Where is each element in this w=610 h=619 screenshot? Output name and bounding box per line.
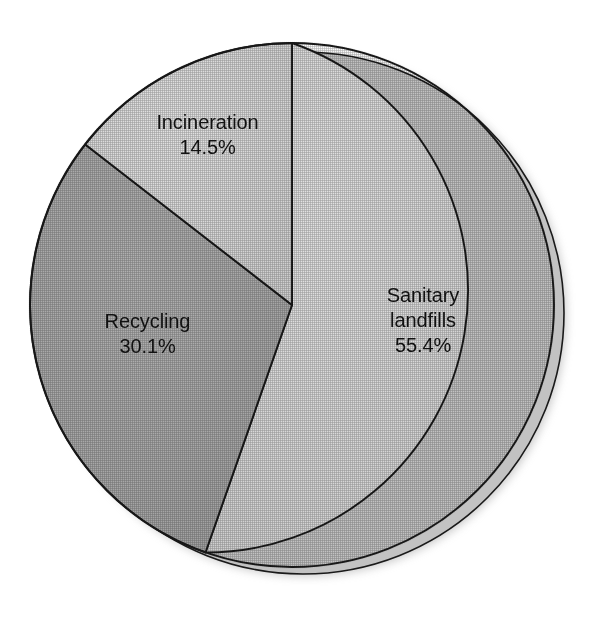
pie-chart-figure: Incineration 14.5% Recycling 30.1% Sanit… — [0, 0, 610, 619]
pie-chart-graphic — [0, 0, 610, 619]
